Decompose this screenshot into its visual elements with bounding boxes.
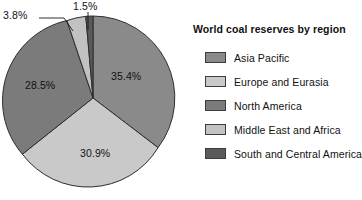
pie-value-north-america: 28.5%: [25, 80, 55, 91]
pie-value-south-central-america: 1.5%: [73, 1, 97, 12]
legend-label: Asia Pacific: [234, 52, 289, 64]
legend-item-south-and-central-america: South and Central America: [193, 142, 353, 166]
pie-svg: [0, 0, 190, 200]
chart-title: World coal reserves by region: [193, 24, 353, 36]
legend-label: South and Central America: [234, 148, 362, 160]
pie-value-asia-pacific: 35.4%: [111, 71, 141, 82]
legend-swatch-icon: [205, 124, 226, 135]
chart-legend: World coal reserves by region Asia Pacif…: [193, 24, 353, 166]
legend-item-middle-east-and-africa: Middle East and Africa: [193, 118, 353, 142]
legend-swatch-icon: [205, 148, 226, 159]
legend-label: Middle East and Africa: [234, 124, 341, 136]
legend-label: North America: [234, 100, 302, 112]
legend-swatch-icon: [205, 52, 226, 63]
pie-chart-plot: 35.4% 30.9% 28.5% 3.8% 1.5%: [0, 0, 190, 200]
legend-item-europe-and-eurasia: Europe and Eurasia: [193, 70, 353, 94]
legend-list: Asia Pacific Europe and Eurasia North Am…: [193, 46, 353, 166]
legend-item-asia-pacific: Asia Pacific: [193, 46, 353, 70]
legend-label: Europe and Eurasia: [234, 76, 329, 88]
legend-swatch-icon: [205, 100, 226, 111]
legend-swatch-icon: [205, 76, 226, 87]
pie-value-middle-east-africa: 3.8%: [3, 10, 27, 21]
legend-item-north-america: North America: [193, 94, 353, 118]
pie-value-europe-eurasia: 30.9%: [80, 148, 110, 159]
